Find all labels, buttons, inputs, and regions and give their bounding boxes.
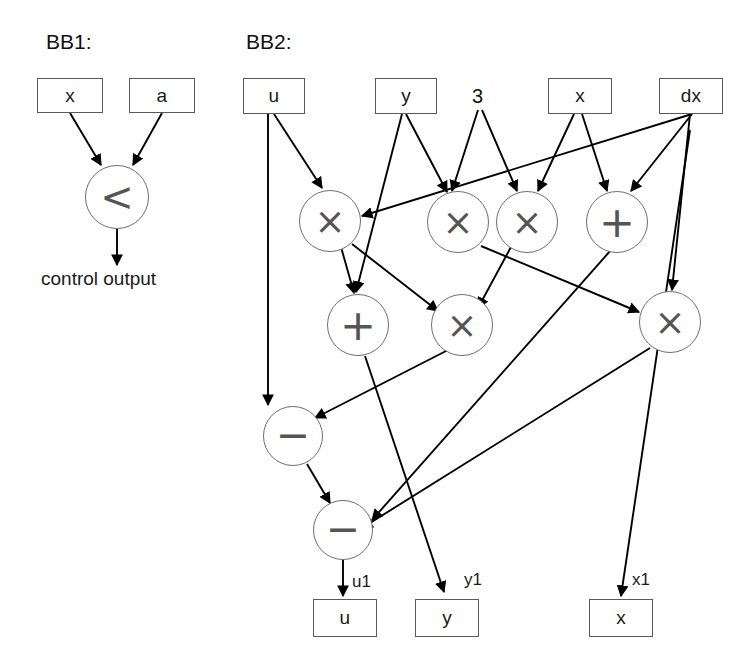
var-box-bb1-a[interactable]: a (129, 78, 195, 113)
var-box-bb1-x[interactable]: x (37, 78, 103, 113)
edge-label-y1: y1 (464, 570, 482, 590)
var-box-output-u[interactable]: u (313, 599, 377, 637)
edge-mul5-to-sub2 (362, 348, 650, 528)
edge-3-to-mul2 (452, 110, 478, 191)
edge-bb1a-to-lt (133, 113, 162, 165)
edge-dx-to-add1 (631, 114, 692, 191)
operator-multiply-1[interactable]: × (299, 190, 361, 252)
minus-icon: − (276, 415, 310, 456)
edge-x-to-add1 (582, 114, 607, 191)
var-box-input-y[interactable]: y (375, 78, 437, 114)
var-box-label: u (269, 85, 280, 107)
literal-constant-3: 3 (472, 85, 483, 108)
edge-add2-to-y1 (365, 356, 444, 592)
var-box-label: a (157, 85, 168, 107)
multiply-icon: × (446, 307, 477, 344)
var-box-output-y[interactable]: y (415, 599, 479, 637)
minus-icon: − (326, 509, 360, 550)
operator-add-1[interactable]: + (586, 191, 648, 253)
var-box-label: dx (681, 85, 701, 107)
edge-sub1-to-sub2 (307, 464, 330, 503)
operator-multiply-4[interactable]: × (431, 294, 493, 356)
edge-add1-to-sub2 (372, 250, 611, 520)
edge-label-u1: u1 (352, 572, 371, 592)
block-title-bb2: BB2: (246, 30, 292, 54)
operator-multiply-2[interactable]: × (427, 191, 489, 253)
edge-y-to-add2 (356, 114, 402, 292)
operator-add-2[interactable]: + (327, 294, 389, 356)
var-box-label: x (575, 85, 585, 107)
var-box-label: y (442, 607, 452, 629)
operator-subtract-2[interactable]: − (313, 500, 373, 560)
operator-less-than[interactable]: < (85, 165, 149, 229)
plus-icon: + (599, 201, 635, 244)
edge-3-to-mul3 (482, 110, 517, 191)
operator-multiply-3[interactable]: × (496, 191, 558, 253)
var-box-label: y (401, 85, 411, 107)
multiply-icon: × (511, 204, 542, 241)
multiply-icon: × (654, 304, 685, 341)
var-box-input-u[interactable]: u (243, 78, 305, 114)
var-box-label: x (616, 607, 626, 629)
edge-bb1x-to-lt (70, 113, 101, 165)
edge-dx-to-mul5 (672, 114, 690, 290)
edge-u-to-mul1 (274, 114, 322, 188)
var-box-label: u (340, 607, 351, 629)
multiply-icon: × (442, 204, 473, 241)
edge-label-x1: x1 (632, 570, 650, 590)
plus-icon: + (340, 304, 376, 347)
multiply-icon: × (314, 203, 345, 240)
edge-x-to-mul3 (538, 114, 574, 191)
edge-mul4-to-sub1 (315, 350, 448, 418)
edge-y-to-mul2 (406, 114, 447, 192)
operator-subtract-1[interactable]: − (263, 406, 323, 466)
operator-multiply-5[interactable]: × (639, 291, 701, 353)
var-box-label: x (65, 85, 75, 107)
edge-mul3-to-mul4 (478, 247, 511, 308)
diagram-canvas: BB1: x a < control output BB2: u y 3 x d… (0, 0, 755, 668)
control-output-label: control output (41, 268, 156, 290)
var-box-output-x[interactable]: x (589, 599, 653, 637)
block-title-bb1: BB1: (46, 30, 92, 54)
var-box-input-dx[interactable]: dx (659, 78, 723, 114)
edge-mul1-to-add2 (341, 247, 354, 293)
edge-mul2-to-mul5 (481, 246, 639, 312)
less-than-icon: < (100, 177, 134, 217)
var-box-input-x[interactable]: x (548, 78, 612, 114)
